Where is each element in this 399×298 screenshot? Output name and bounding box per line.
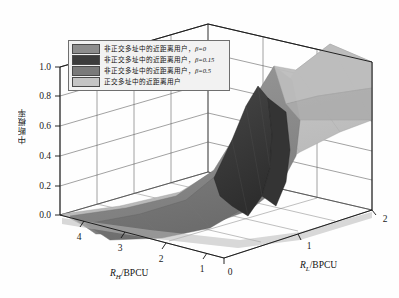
x-tick-3: 2 (159, 254, 164, 264)
legend-label-oma: 正交多址中的近距离用户 (104, 78, 181, 86)
legend: 非正交多址中的近距离用户，β=0 非正交多址中的近距离用户，β=0.15 非正交… (68, 40, 230, 91)
z-tick-labels: 1.0 0.8 0.6 0.4 0.2 0.0 (39, 62, 51, 220)
svg-text:RL/BPCU: RL/BPCU (299, 260, 337, 273)
x-tick-2: 3 (118, 243, 123, 253)
svg-text:RH/BPCU: RH/BPCU (109, 268, 148, 281)
z-axis-caption: 中断概率 (19, 108, 31, 144)
z-tick-3: 0.6 (39, 121, 51, 131)
figure-3d-surface-plot: 1.0 0.8 0.6 0.4 0.2 0.0 4 3 2 1 0 (0, 0, 399, 298)
legend-swatch-beta-0 (72, 44, 100, 54)
x-axis-title-unit: /BPCU (121, 268, 149, 278)
legend-item: 正交多址中的近距离用户 (72, 77, 226, 87)
z-ticks (55, 67, 60, 215)
legend-swatch-oma (72, 77, 100, 87)
x-axis-title: RH/BPCU (109, 268, 148, 281)
legend-swatch-beta-0-5 (72, 66, 100, 76)
y-axis-title-unit: /BPCU (310, 260, 338, 270)
legend-item: 非正交多址中的近距离用户，β=0 (72, 44, 226, 54)
y-tick-1: 0 (228, 267, 233, 277)
x-tick-4: 1 (200, 264, 205, 274)
legend-label-beta-0: 非正交多址中的近距离用户，β=0 (104, 45, 206, 53)
legend-label-beta-0-5: 非正交多址中的近距离用户，β=0.5 (104, 67, 211, 75)
y-tick-2: 1 (307, 241, 312, 251)
legend-item: 非正交多址中的近距离用户，β=0.5 (72, 66, 226, 76)
z-tick-1: 1.0 (39, 62, 51, 72)
z-tick-5: 0.2 (39, 181, 51, 191)
legend-label-beta-0-15: 非正交多址中的近距离用户，β=0.15 (104, 56, 214, 64)
z-tick-4: 0.4 (39, 151, 51, 161)
legend-swatch-beta-0-15 (72, 55, 100, 65)
x-tick-1: 4 (77, 232, 82, 242)
z-tick-2: 0.8 (39, 91, 51, 101)
z-tick-6: 0.0 (39, 210, 51, 220)
legend-item: 非正交多址中的近距离用户，β=0.15 (72, 55, 226, 65)
y-tick-3: 2 (383, 214, 388, 224)
y-axis-title: RL/BPCU (299, 260, 337, 273)
